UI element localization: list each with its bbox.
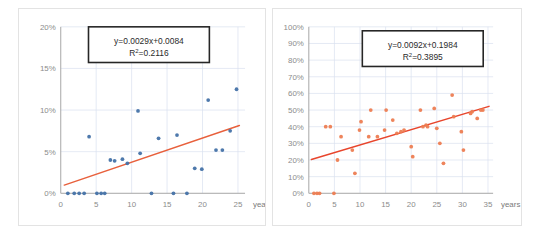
x-axis-tick-label: 15 <box>381 200 390 209</box>
scatter-point <box>391 118 395 122</box>
y-axis-tick-label: 100% <box>284 23 304 32</box>
scatter-point <box>206 98 210 102</box>
scatter-point <box>376 135 380 139</box>
scatter-point <box>462 148 466 152</box>
scatter-point <box>435 126 439 130</box>
left-chart-panel: 0%5%10%15%20%0510152025yearsy=0.0029x+0.… <box>18 8 266 226</box>
scatter-point <box>220 148 224 152</box>
scatter-point <box>138 151 142 155</box>
scatter-point <box>432 107 436 111</box>
x-axis-tick-label: 5 <box>332 200 337 209</box>
scatter-point <box>384 108 388 112</box>
y-axis-tick-label: 40% <box>288 123 304 132</box>
y-axis-tick-label: 70% <box>288 73 304 82</box>
y-axis-tick-label: 20% <box>288 156 304 165</box>
scatter-point <box>336 158 340 162</box>
right-chart-plot: 0%10%20%30%40%50%60%70%80%90%100%0510152… <box>273 9 521 225</box>
scatter-point <box>409 145 413 149</box>
scatter-point <box>350 148 354 152</box>
scatter-point <box>459 130 463 134</box>
scatter-point <box>328 125 332 129</box>
x-axis-tick-label: 10 <box>127 200 136 209</box>
scatter-point <box>172 191 176 195</box>
x-axis-tick-label: 15 <box>163 200 172 209</box>
scatter-point <box>175 133 179 137</box>
y-axis-tick-label: 20% <box>40 23 56 32</box>
scatter-point <box>470 110 474 114</box>
scatter-point <box>214 148 218 152</box>
y-axis-tick-label: 0% <box>44 189 55 198</box>
scatter-point <box>419 108 423 112</box>
scatter-point <box>99 191 103 195</box>
x-axis-tick-label: 25 <box>432 200 441 209</box>
scatter-point <box>395 131 399 135</box>
y-axis-tick-label: 50% <box>288 106 304 115</box>
x-axis-tick-label: 20 <box>198 200 207 209</box>
scatter-point <box>125 161 129 165</box>
scatter-point <box>113 159 117 163</box>
x-axis-tick-label: 25 <box>234 200 243 209</box>
y-axis-tick-label: 80% <box>288 56 304 65</box>
y-axis-tick-label: 10% <box>288 173 304 182</box>
x-axis-title: years <box>253 200 265 209</box>
scatter-point <box>136 109 140 113</box>
scatter-point <box>358 128 362 132</box>
scatter-point <box>369 108 373 112</box>
scatter-point <box>200 167 204 171</box>
y-axis-tick-label: 0% <box>292 189 303 198</box>
x-axis-tick-label: 0 <box>307 200 312 209</box>
x-axis-tick-label: 0 <box>59 200 64 209</box>
x-axis-tick-label: 30 <box>458 200 467 209</box>
scatter-chart-figure: 0%5%10%15%20%0510152025yearsy=0.0029x+0.… <box>0 0 538 234</box>
left-chart-plot: 0%5%10%15%20%0510152025yearsy=0.0029x+0.… <box>19 9 265 225</box>
scatter-point <box>383 128 387 132</box>
scatter-point <box>95 191 99 195</box>
regression-equation-text: y=0.0029x+0.0084 <box>114 36 184 46</box>
scatter-point <box>332 191 336 195</box>
scatter-point <box>402 128 406 132</box>
scatter-point <box>66 191 70 195</box>
x-axis-title: years <box>501 200 520 209</box>
scatter-point <box>121 157 125 161</box>
right-chart-panel: 0%10%20%30%40%50%60%70%80%90%100%0510152… <box>272 8 522 226</box>
r-squared-text: R2=0.2116 <box>129 48 169 58</box>
scatter-point <box>450 93 454 97</box>
scatter-point <box>426 125 430 129</box>
scatter-point <box>235 87 239 91</box>
scatter-point <box>324 125 328 129</box>
scatter-point <box>452 115 456 119</box>
y-axis-tick-label: 5% <box>44 148 55 157</box>
y-axis-tick-label: 15% <box>40 64 56 73</box>
scatter-point <box>77 191 81 195</box>
scatter-point <box>442 161 446 165</box>
x-axis-tick-label: 10 <box>356 200 365 209</box>
y-axis-tick-label: 10% <box>40 106 56 115</box>
y-axis-tick-label: 90% <box>288 39 304 48</box>
scatter-point <box>150 191 154 195</box>
scatter-point <box>411 155 415 159</box>
scatter-point <box>185 191 189 195</box>
scatter-point <box>108 158 112 162</box>
y-axis-tick-label: 60% <box>288 89 304 98</box>
scatter-point <box>318 191 322 195</box>
scatter-point <box>353 171 357 175</box>
scatter-point <box>103 191 107 195</box>
scatter-point <box>481 108 485 112</box>
scatter-point <box>157 136 161 140</box>
scatter-point <box>475 117 479 121</box>
scatter-point <box>87 135 91 139</box>
scatter-point <box>228 129 232 133</box>
x-axis-tick-label: 5 <box>94 200 99 209</box>
scatter-point <box>339 135 343 139</box>
scatter-point <box>438 141 442 145</box>
regression-equation-text: y=0.0092x+0.1984 <box>388 40 458 50</box>
x-axis-tick-label: 20 <box>407 200 416 209</box>
scatter-point <box>82 191 86 195</box>
scatter-point <box>367 135 371 139</box>
r-squared-text: R2=0.3895 <box>403 52 443 62</box>
scatter-point <box>359 120 363 124</box>
x-axis-tick-label: 35 <box>484 200 493 209</box>
scatter-point <box>193 166 197 170</box>
y-axis-tick-label: 30% <box>288 139 304 148</box>
trendline <box>64 125 239 185</box>
